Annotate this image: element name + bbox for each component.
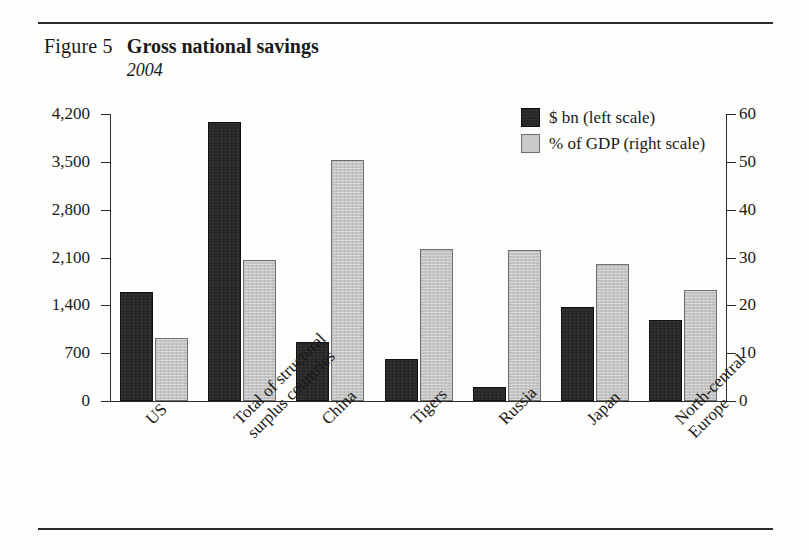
page-title: Gross national savings: [127, 34, 319, 58]
left-axis-line: [110, 114, 111, 401]
left-axis-tick-label: 1,400: [52, 296, 90, 313]
top-rule: [38, 22, 773, 24]
bar-group: [385, 114, 453, 401]
bar-group: [473, 114, 541, 401]
bar-pct-gdp[interactable]: [331, 160, 364, 401]
bar-dollar-bn[interactable]: [561, 307, 594, 401]
left-axis-tick-label: 2,800: [52, 201, 90, 218]
left-tick-mark: [101, 401, 110, 402]
right-tick-mark: [727, 210, 736, 211]
figure-number: Figure 5: [44, 34, 113, 58]
bar-group: [208, 114, 276, 401]
bar-dollar-bn[interactable]: [208, 122, 241, 401]
bar-group: [120, 114, 188, 401]
left-tick-mark: [101, 258, 110, 259]
left-tick-mark: [101, 305, 110, 306]
bottom-rule: [38, 528, 773, 530]
bar-pct-gdp[interactable]: [508, 250, 541, 401]
right-axis-tick-label: 30: [739, 249, 756, 266]
bar-dollar-bn[interactable]: [120, 292, 153, 401]
right-axis-tick-label: 40: [739, 201, 756, 218]
title-texts: Gross national savings 2004: [127, 34, 319, 81]
bar-pct-gdp[interactable]: [155, 338, 188, 401]
right-axis-tick-label: 50: [739, 153, 756, 170]
figure-subtitle: 2004: [127, 59, 319, 81]
bar-pct-gdp[interactable]: [596, 264, 629, 401]
right-tick-mark: [727, 258, 736, 259]
right-axis-tick-label: 60: [739, 105, 756, 122]
left-tick-mark: [101, 114, 110, 115]
left-tick-mark: [101, 353, 110, 354]
bar-pct-gdp[interactable]: [420, 249, 453, 401]
left-tick-mark: [101, 162, 110, 163]
bar-dollar-bn[interactable]: [473, 387, 506, 401]
left-axis-tick-label: 700: [65, 344, 91, 361]
right-axis-tick-label: 20: [739, 296, 756, 313]
left-axis-tick-label: 0: [82, 392, 91, 409]
right-tick-mark: [727, 162, 736, 163]
right-tick-mark: [727, 114, 736, 115]
bar-group: [649, 114, 717, 401]
plot-area: 07001,4002,1002,8003,5004,200 0102030405…: [110, 114, 727, 401]
left-axis-tick-label: 2,100: [52, 249, 90, 266]
left-axis-tick-label: 4,200: [52, 105, 90, 122]
right-tick-mark: [727, 305, 736, 306]
x-axis-category-line: US: [142, 400, 171, 429]
x-axis-category-label[interactable]: US: [142, 400, 171, 429]
bar-group: [561, 114, 629, 401]
bar-dollar-bn[interactable]: [385, 359, 418, 401]
figure-title-block: Figure 5 Gross national savings 2004: [44, 34, 319, 81]
left-axis-tick-label: 3,500: [52, 153, 90, 170]
bar-dollar-bn[interactable]: [649, 320, 682, 401]
left-tick-mark: [101, 210, 110, 211]
figure-container: Figure 5 Gross national savings 2004 $ b…: [0, 0, 809, 560]
